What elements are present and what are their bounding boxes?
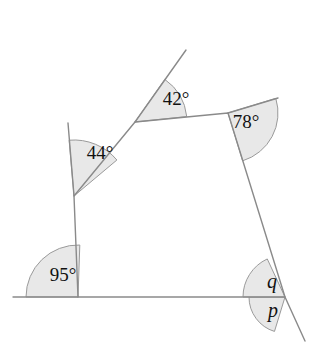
angle-label-44: 44° xyxy=(87,142,114,163)
angle-label-p: p xyxy=(266,299,278,322)
angle-label-42: 42° xyxy=(163,88,190,109)
angle-label-78: 78° xyxy=(233,111,260,132)
angle-label-95: 95° xyxy=(50,264,77,285)
geometry-canvas: 44° 42° 78° 95° q p xyxy=(0,0,319,364)
angle-sector-q xyxy=(249,297,285,331)
ray-bottom-right-extension xyxy=(285,297,305,341)
angle-label-q: q xyxy=(267,270,277,293)
geometry-diagram: 44° 42° 78° 95° q p xyxy=(0,0,319,364)
angle-label-group: 44° 42° 78° 95° q p xyxy=(50,88,278,321)
